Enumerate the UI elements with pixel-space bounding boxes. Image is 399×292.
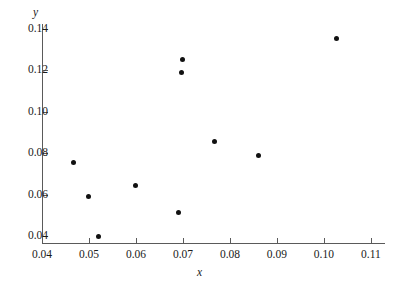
data-point: [133, 183, 138, 188]
data-point: [179, 70, 184, 75]
data-point: [334, 36, 339, 41]
data-point: [71, 160, 76, 165]
data-point: [256, 153, 261, 158]
data-point: [176, 210, 181, 215]
plot-area: [0, 0, 399, 292]
data-point: [180, 57, 185, 62]
data-point: [86, 194, 91, 199]
scatter-plot-figure: y x 0.040.060.080.100.120.14 0.040.050.0…: [0, 0, 399, 292]
data-point: [212, 139, 217, 144]
data-point: [96, 234, 101, 239]
